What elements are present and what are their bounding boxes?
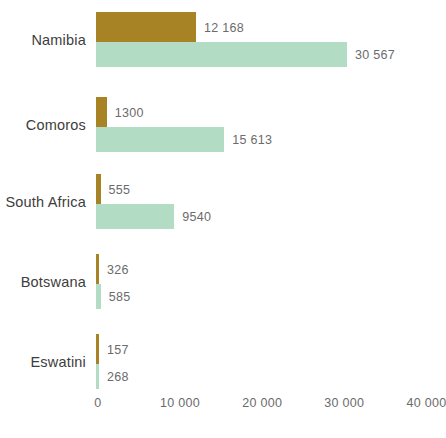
bar-gold[interactable] [96,334,99,364]
bar-green[interactable] [96,42,347,67]
plot-area: Namibia12 16830 567Comoros130015 613Sout… [0,0,446,392]
bar-green[interactable] [96,284,101,309]
bar-value-label: 9540 [182,210,211,224]
bar-gold[interactable] [96,254,99,284]
bars-container: 157268 [96,332,446,392]
x-tick-label: 10 000 [160,396,200,410]
x-tick-label: 0 [94,396,101,410]
bar-green[interactable] [96,127,224,152]
category-label: Comoros [0,95,86,155]
category-label: South Africa [0,172,86,232]
x-tick-label: 30 000 [324,396,364,410]
bars-container: 12 16830 567 [96,10,446,70]
bars-container: 5559540 [96,172,446,232]
bar-green[interactable] [96,364,99,389]
bar-group: Comoros130015 613 [0,95,446,155]
x-axis: 010 00020 00030 00040 000 [0,396,446,426]
bar-group: South Africa5559540 [0,172,446,232]
bar-value-label: 268 [107,370,129,384]
bar-group: Eswatini157268 [0,332,446,392]
bar-gold[interactable] [96,174,101,204]
bar-value-label: 157 [107,343,129,357]
x-tick-label: 40 000 [406,396,446,410]
bar-chart: Namibia12 16830 567Comoros130015 613Sout… [0,0,446,438]
bar-value-label: 15 613 [232,133,272,147]
x-tick-label: 20 000 [242,396,282,410]
bar-value-label: 585 [109,290,131,304]
bar-group: Botswana326585 [0,252,446,312]
category-label: Eswatini [0,332,86,392]
bar-green[interactable] [96,204,174,229]
bar-value-label: 1300 [115,106,144,120]
category-label: Botswana [0,252,86,312]
bar-value-label: 326 [107,263,129,277]
bar-gold[interactable] [96,97,107,127]
category-label: Namibia [0,10,86,70]
bar-group: Namibia12 16830 567 [0,10,446,70]
bars-container: 326585 [96,252,446,312]
bar-value-label: 555 [109,183,131,197]
bars-container: 130015 613 [96,95,446,155]
bar-value-label: 30 567 [355,48,395,62]
bar-gold[interactable] [96,12,196,42]
bar-value-label: 12 168 [204,21,244,35]
